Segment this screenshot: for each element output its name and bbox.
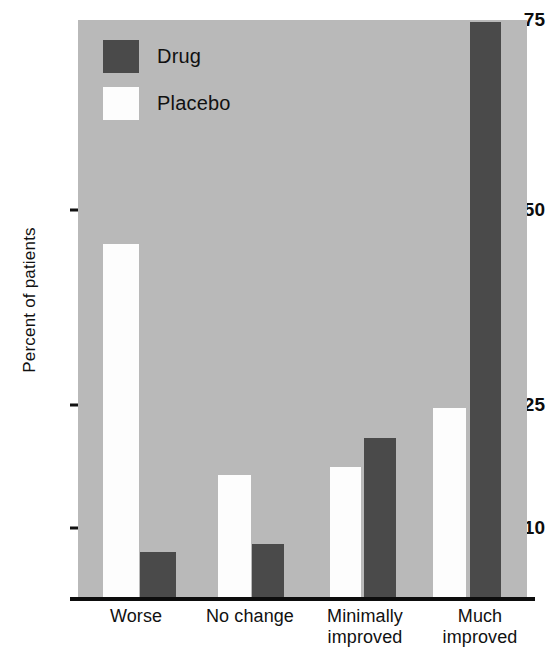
x-category-much-improved: Much improved xyxy=(410,606,550,648)
bar-drug-no-change xyxy=(252,544,284,598)
bar-placebo-worse xyxy=(103,244,139,598)
bar-drug-minimally-improved xyxy=(364,438,396,598)
x-category-worse: Worse xyxy=(76,606,196,627)
bar-placebo-much-improved xyxy=(433,408,466,598)
x-axis-line xyxy=(70,597,535,601)
y-axis-label: Percent of patients xyxy=(20,220,40,380)
x-category-much-improved-line1: Much xyxy=(410,606,550,627)
bar-drug-much-improved xyxy=(470,22,501,598)
legend-label-placebo: Placebo xyxy=(157,92,231,115)
bar-placebo-minimally-improved xyxy=(330,467,361,598)
drug-swatch-icon xyxy=(103,40,139,73)
legend-label-drug: Drug xyxy=(157,45,201,68)
bar-drug-worse xyxy=(140,552,176,598)
plot-area: Drug Placebo xyxy=(78,20,527,598)
chart-legend: Drug Placebo xyxy=(103,40,231,134)
x-category-much-improved-line2: improved xyxy=(410,627,550,648)
legend-item-placebo: Placebo xyxy=(103,87,231,120)
bar-placebo-no-change xyxy=(218,475,251,598)
bar-chart-figure: Percent of patients 75 50 25 10 Drug P xyxy=(0,0,555,658)
placebo-swatch-icon xyxy=(103,87,139,120)
x-category-worse-line1: Worse xyxy=(76,606,196,627)
legend-item-drug: Drug xyxy=(103,40,231,73)
